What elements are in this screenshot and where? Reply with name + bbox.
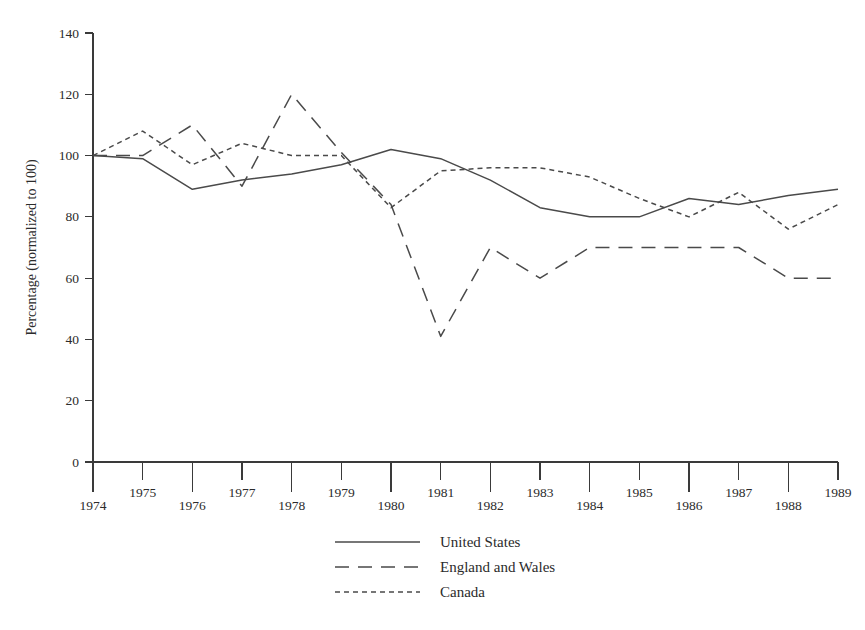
x-tick-label: 1988 xyxy=(775,498,802,513)
y-tick-label: 20 xyxy=(66,393,80,408)
x-tick-label: 1978 xyxy=(278,498,305,513)
x-tick-label: 1980 xyxy=(378,498,405,513)
x-tick-label: 1981 xyxy=(427,485,454,500)
x-tick-label: 1977 xyxy=(229,485,256,500)
y-tick-label: 100 xyxy=(59,148,80,163)
y-tick-label: 40 xyxy=(66,332,80,347)
y-axis-label-text: Percentage (normalized to 100) xyxy=(24,159,40,335)
x-tick-label: 1982 xyxy=(477,498,504,513)
x-tick-label: 1983 xyxy=(527,485,554,500)
x-tick-label: 1987 xyxy=(725,485,752,500)
x-tick-label: 1985 xyxy=(626,485,653,500)
x-tick-label: 1989 xyxy=(825,485,852,500)
x-tick-label: 1975 xyxy=(129,485,156,500)
chart-legend: United StatesEngland and WalesCanada xyxy=(335,534,555,600)
legend-label-united-states: United States xyxy=(440,534,521,550)
y-tick-label: 80 xyxy=(66,209,80,224)
line-chart: 020406080100120140 197419751976197719781… xyxy=(0,0,865,630)
x-axis: 1974197519761977197819791980198119821983… xyxy=(80,462,852,513)
chart-series xyxy=(93,94,838,336)
series-line-england-and-wales xyxy=(93,94,838,336)
y-tick-label: 0 xyxy=(72,455,79,470)
y-tick-label: 60 xyxy=(66,271,80,286)
series-line-canada xyxy=(93,131,838,229)
x-tick-label: 1974 xyxy=(80,498,107,513)
y-axis-label: Percentage (normalized to 100) xyxy=(24,159,40,335)
x-tick-label: 1984 xyxy=(576,498,603,513)
x-tick-label: 1986 xyxy=(676,498,703,513)
x-tick-label: 1979 xyxy=(328,485,355,500)
y-tick-label: 120 xyxy=(59,87,80,102)
y-tick-label: 140 xyxy=(59,26,80,41)
chart-figure: 020406080100120140 197419751976197719781… xyxy=(0,0,865,630)
legend-label-england-and-wales: England and Wales xyxy=(440,559,555,575)
x-tick-label: 1976 xyxy=(179,498,206,513)
legend-label-canada: Canada xyxy=(440,584,485,600)
y-axis: 020406080100120140 xyxy=(59,26,93,470)
